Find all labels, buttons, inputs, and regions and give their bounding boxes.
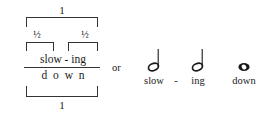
- connector-or-label: or: [112, 62, 121, 74]
- note-lyric: down: [222, 74, 266, 87]
- segment-letter: o: [53, 69, 59, 81]
- top-bracket: [26, 17, 98, 27]
- mid-level-duration-label-left: ½: [26, 28, 48, 41]
- note-group: down: [222, 46, 266, 96]
- half-note-icon: [132, 46, 176, 74]
- mid-level-duration-label-right: ½: [74, 28, 96, 41]
- mid-level-label-row: ½ ½: [18, 28, 106, 41]
- half-note-icon: [176, 46, 220, 74]
- segment-letter: d: [41, 69, 47, 81]
- metrical-bracket-diagram: 1 ½ ½ slow - ing d o w n 1: [18, 4, 108, 116]
- note-group: slow -: [132, 46, 176, 96]
- syllable-tier: slow - ing: [24, 52, 102, 66]
- note-group: ing: [176, 46, 220, 96]
- segment-letter: w: [65, 69, 73, 81]
- segment-letter: n: [79, 69, 85, 81]
- segment-tier: d o w n: [24, 68, 102, 82]
- bottom-level-duration-label: 1: [18, 99, 106, 111]
- note-lyric: ing: [176, 74, 220, 87]
- mid-bracket-right: [68, 42, 98, 51]
- prosody-figure: 1 ½ ½ slow - ing d o w n 1 or: [0, 0, 268, 120]
- mid-bracket-left: [26, 42, 54, 51]
- music-notation-group: slow - ing down: [132, 46, 266, 96]
- bottom-bracket: [26, 86, 98, 97]
- whole-note-icon: [222, 46, 266, 74]
- top-level-duration-label: 1: [18, 4, 106, 16]
